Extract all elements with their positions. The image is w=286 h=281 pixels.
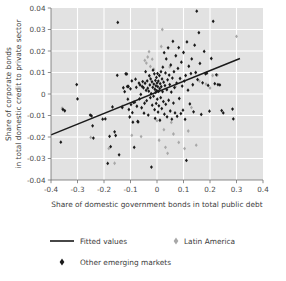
- legend-label-latin-america: Latin America: [184, 237, 235, 246]
- y-tick-label: -0.03: [27, 154, 46, 163]
- chart-svg: -0.4-0.3-0.2-0.100.10.20.30.4 -0.04-0.03…: [0, 0, 286, 281]
- plot-area: [51, 8, 263, 180]
- x-tick-label: 0.2: [204, 185, 215, 194]
- y-tick-label: 0.01: [29, 68, 45, 77]
- x-tick-label: -0.3: [70, 185, 84, 194]
- legend-label-other-emerging-markets: Other emerging markets: [80, 258, 171, 267]
- y-axis-title-line-2: in total domestic credit to private sect…: [14, 18, 23, 168]
- y-tick-label: -0.01: [27, 111, 46, 120]
- x-tick-label: 0.1: [178, 185, 189, 194]
- x-tick-label: -0.4: [44, 185, 58, 194]
- x-tick-label: 0.3: [231, 185, 242, 194]
- y-tick-label: -0.04: [27, 176, 46, 185]
- scatter-chart-figure: -0.4-0.3-0.2-0.100.10.20.30.4 -0.04-0.03…: [0, 0, 286, 281]
- x-tick-label: 0: [155, 185, 160, 194]
- y-tick-label: 0.04: [29, 4, 45, 13]
- y-axis-title-line-1: Share of corporate bonds: [4, 47, 13, 141]
- y-tick-label: -0.02: [27, 133, 46, 142]
- x-tick-label: 0.4: [257, 185, 269, 194]
- x-axis-title: Share of domestic government bonds in to…: [51, 200, 262, 209]
- x-tick-label: -0.1: [123, 185, 137, 194]
- y-tick-label: 0.02: [29, 47, 45, 56]
- y-tick-label: 0: [41, 90, 46, 99]
- y-tick-label: 0.03: [29, 25, 45, 34]
- x-tick-label: -0.2: [97, 185, 111, 194]
- legend-label-fitted-values: Fitted values: [80, 237, 127, 246]
